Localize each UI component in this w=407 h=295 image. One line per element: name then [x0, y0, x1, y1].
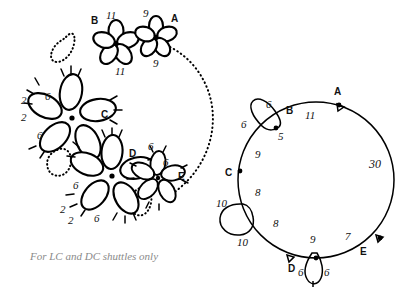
circle-count-30: 30: [368, 157, 381, 171]
point-a-dot: [337, 103, 342, 108]
motif-b-count-top: 11: [106, 9, 116, 21]
circle-label-e: E: [360, 246, 367, 257]
motif-label-d: D: [129, 148, 136, 159]
circle-count-5: 5: [278, 130, 284, 142]
point-d-dot: [314, 256, 319, 261]
figure-caption: For LC and DC shuttles only: [29, 250, 158, 262]
circle-count-7: 7: [345, 230, 351, 242]
circle-label-a: A: [334, 86, 341, 97]
circle-label-c: C: [225, 167, 232, 178]
motif-b: [91, 20, 141, 67]
ring-top-left-count-1: 6: [266, 98, 272, 110]
ring-left-count-1: 10: [216, 197, 228, 209]
motif-label-e: E: [178, 171, 185, 182]
motif-d-count-3: 2: [68, 214, 74, 226]
motif-b-center: [114, 42, 118, 46]
circle-count-9b: 9: [310, 233, 316, 245]
motif-c-count-3: 2: [21, 111, 27, 123]
motif-d-count-4: 6: [94, 212, 100, 224]
motif-label-c: C: [101, 109, 108, 120]
circle-count-8b: 8: [273, 217, 279, 229]
arrow-d: [287, 255, 294, 262]
motif-a-count-bottom: 9: [153, 57, 159, 69]
circle-diagram: A B C D E 11 5 9 8 8 9 7 30 6 6 10 10 6 …: [216, 86, 394, 287]
motif-c-count-4: 6: [37, 129, 43, 141]
ring-bottom-count-2: 6: [324, 266, 330, 278]
point-c-dot: [238, 169, 243, 174]
point-e-dot: [378, 236, 383, 241]
ghost-loop-c-d: [47, 149, 71, 176]
motif-e-count-1: 6: [148, 140, 154, 152]
ring-bottom-count-1: 6: [298, 266, 304, 278]
motif-b-count-bottom: 11: [115, 65, 125, 77]
motif-c-count-2: 2: [21, 94, 27, 106]
circle-label-b: B: [286, 105, 293, 116]
motif-c-count-1: 6: [45, 90, 51, 102]
motif-d-center: [109, 173, 114, 178]
motif-c-center: [69, 115, 74, 120]
circle-count-9a: 9: [255, 148, 261, 160]
motif-d-count-2: 2: [60, 203, 66, 215]
motif-label-b: B: [91, 15, 98, 26]
motif-a-center: [154, 36, 158, 40]
motif-e-center: [156, 176, 160, 180]
motif-diagram: B 11 11 A 9 9: [21, 7, 213, 226]
ring-top-left-count-2: 6: [241, 118, 247, 130]
figure-canvas: B 11 11 A 9 9: [0, 0, 407, 295]
motif-label-a: A: [171, 13, 178, 24]
circle-count-8a: 8: [255, 186, 261, 198]
ghost-loop-b-c: [51, 33, 74, 62]
circle-count-11: 11: [305, 109, 315, 121]
motif-d-count-1: 6: [73, 179, 79, 191]
ring-left-count-2: 10: [237, 236, 249, 248]
motif-e-count-2: 6: [163, 156, 169, 168]
tatting-pattern-figure: B 11 11 A 9 9: [0, 0, 407, 295]
circle-label-d: D: [288, 263, 295, 274]
motif-a-count-top: 9: [143, 7, 149, 19]
